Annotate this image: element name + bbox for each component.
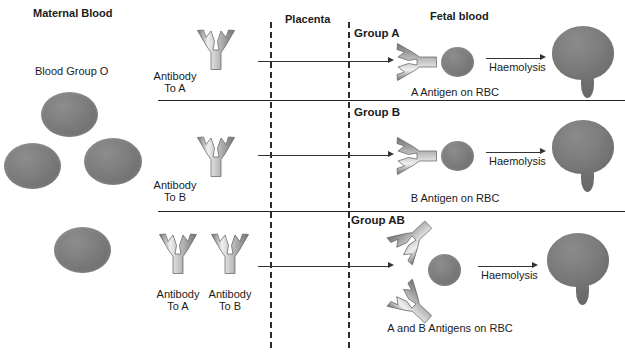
- haemolysis-label-group-ab: Haemolysis: [481, 269, 538, 282]
- bound-antibody-group-a-icon: [395, 40, 439, 84]
- haemolysed-cell-group-ab: [547, 233, 609, 302]
- antigen-label-group-a: A Antigen on RBC: [411, 86, 499, 99]
- haemolysed-cell-body: [547, 233, 609, 287]
- header-maternal-blood: Maternal Blood: [33, 7, 112, 20]
- haemolysed-cell-body: [552, 26, 614, 80]
- antibody-to-b-caption-line1: Antibody: [154, 179, 197, 192]
- haemolysed-cell-group-b: [552, 120, 614, 189]
- flow-arrow-group-a: [258, 61, 390, 62]
- antigen-label-group-b: B Antigen on RBC: [411, 192, 500, 205]
- maternal-rbc: [84, 138, 142, 185]
- antigen-label-group-ab: A and B Antigens on RBC: [387, 322, 512, 335]
- header-fetal-blood: Fetal blood: [430, 10, 489, 23]
- maternal-rbc: [54, 227, 111, 273]
- antibody-to-b-ab-row-icon: [208, 232, 252, 276]
- flow-arrow-group-b: [258, 155, 390, 156]
- group-a-label: Group A: [354, 27, 400, 40]
- haemolysis-arrow-head-group-b: [540, 148, 546, 154]
- group-b-label: Group B: [354, 106, 400, 119]
- haemolysis-label-group-a: Haemolysis: [489, 61, 546, 74]
- antibody-to-a-caption-line1: Antibody: [154, 70, 197, 83]
- blood-group-o-label: Blood Group O: [35, 65, 108, 78]
- antibody-to-a-ab-row-caption-line2: To A: [167, 300, 188, 313]
- bound-antibody-group-b-icon: [395, 134, 439, 178]
- haemolysed-cell-body: [552, 120, 614, 174]
- haemolysis-arrow-head-group-a: [540, 54, 546, 60]
- row-divider-b-ab: [158, 211, 625, 212]
- antibody-to-b-caption-line2: To B: [164, 191, 186, 204]
- flow-arrow-head-group-b: [388, 151, 394, 157]
- flow-arrow-head-group-ab: [388, 262, 394, 268]
- fetal-rbc-group-b: [441, 141, 474, 171]
- fetal-rbc-group-ab: [428, 254, 461, 286]
- placenta-boundary-right: [348, 22, 350, 348]
- haemolytic-disease-diagram: Maternal Blood Placenta Fetal blood Bloo…: [0, 0, 625, 353]
- flow-arrow-head-group-a: [388, 57, 394, 63]
- row-divider-a-b: [158, 100, 625, 101]
- haemolysis-arrow-head-group-ab: [532, 262, 538, 268]
- maternal-rbc: [4, 143, 61, 189]
- haemolysis-arrow-group-ab: [478, 266, 534, 267]
- antibody-to-b-ab-row-caption-line2: To B: [219, 300, 241, 313]
- antibody-to-a-ab-row-icon: [156, 232, 200, 276]
- fetal-rbc-group-a: [441, 47, 474, 77]
- antibody-to-a-ab-row-caption-line1: Antibody: [157, 288, 200, 301]
- haemolysed-cell-group-a: [552, 26, 614, 95]
- haemolysis-label-group-b: Haemolysis: [489, 155, 546, 168]
- antibody-to-a-caption-line2: To A: [164, 82, 185, 95]
- placenta-boundary-left: [270, 22, 272, 348]
- haemolysis-arrow-group-b: [486, 152, 542, 153]
- antibody-to-b-ab-row-caption-line1: Antibody: [209, 288, 252, 301]
- header-placenta: Placenta: [285, 13, 330, 26]
- antibody-to-b-icon: [194, 135, 238, 179]
- antibody-to-a-icon: [194, 28, 238, 72]
- haemolysis-arrow-group-a: [486, 58, 542, 59]
- flow-arrow-group-ab: [258, 266, 390, 267]
- maternal-rbc: [41, 92, 98, 137]
